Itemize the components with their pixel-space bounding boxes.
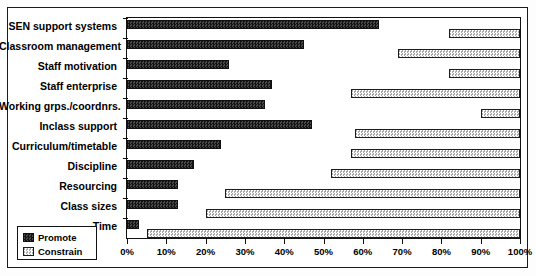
category-label: Working grps./coordnrs. <box>0 101 117 112</box>
x-axis-tick <box>324 239 325 244</box>
bar-group <box>127 59 520 79</box>
y-axis-tick <box>123 78 128 79</box>
y-axis-tick <box>123 178 128 179</box>
x-axis-tick-label: 20% <box>196 246 215 257</box>
x-axis-tick <box>520 239 521 244</box>
bar-group <box>127 139 520 159</box>
y-axis-tick <box>123 218 128 219</box>
x-axis-tick <box>481 239 482 244</box>
y-axis-tick <box>123 198 128 199</box>
x-axis-tick-label: 10% <box>157 246 176 257</box>
bar-group <box>127 199 520 219</box>
bar-group <box>127 159 520 179</box>
bar-group <box>127 19 520 39</box>
y-axis-tick <box>123 18 128 19</box>
bar-constrain <box>351 149 520 158</box>
bar-constrain <box>331 169 520 178</box>
category-label: Discipline <box>0 161 117 172</box>
x-axis-tick-label: 80% <box>432 246 451 257</box>
bar-promote <box>127 40 304 49</box>
y-axis-tick <box>123 158 128 159</box>
bar-promote <box>127 140 221 149</box>
x-axis-tick-label: 100% <box>508 246 532 257</box>
x-axis-tick <box>245 239 246 244</box>
x-axis-tick-label: 30% <box>235 246 254 257</box>
x-axis-tick-label: 50% <box>314 246 333 257</box>
x-axis-tick <box>166 239 167 244</box>
bar-promote <box>127 200 178 209</box>
bar-constrain <box>355 129 520 138</box>
bar-constrain <box>147 229 520 238</box>
promote-swatch-icon <box>23 233 34 242</box>
category-label: Class sizes <box>0 201 117 212</box>
legend-label-promote: Promote <box>38 232 77 243</box>
bar-constrain <box>225 189 520 198</box>
bar-constrain <box>481 109 520 118</box>
category-label: SEN support systems <box>0 21 117 32</box>
x-axis-tick <box>402 239 403 244</box>
bar-constrain <box>206 209 520 218</box>
bar-promote <box>127 60 229 69</box>
bar-constrain <box>398 49 520 58</box>
y-axis-tick <box>123 138 128 139</box>
y-axis-tick <box>123 98 128 99</box>
x-axis-tick <box>206 239 207 244</box>
x-axis-tick <box>127 239 128 244</box>
y-axis-tick <box>123 38 128 39</box>
bar-group <box>127 219 520 239</box>
legend-label-constrain: Constrain <box>38 246 82 257</box>
category-label: Classroom management <box>0 41 117 52</box>
x-axis-tick-label: 90% <box>471 246 490 257</box>
category-label: Staff motivation <box>0 61 117 72</box>
y-axis-tick <box>123 118 128 119</box>
category-label: Resourcing <box>0 181 117 192</box>
plot-area <box>126 17 521 239</box>
bar-promote <box>127 80 272 89</box>
y-axis-tick <box>123 58 128 59</box>
bar-promote <box>127 120 312 129</box>
bar-constrain <box>449 69 520 78</box>
category-label: Staff enterprise <box>0 81 117 92</box>
x-axis-tick <box>363 239 364 244</box>
x-axis-tick <box>284 239 285 244</box>
bar-promote <box>127 160 194 169</box>
bar-chart-figure: SEN support systemsClassroom managementS… <box>0 0 536 276</box>
bar-group <box>127 119 520 139</box>
bar-group <box>127 39 520 59</box>
bar-group <box>127 79 520 99</box>
bar-promote <box>127 180 178 189</box>
category-label: Inclass support <box>0 121 117 132</box>
constrain-swatch-icon <box>23 247 34 256</box>
bar-group <box>127 179 520 199</box>
bar-promote <box>127 220 139 229</box>
x-axis-tick-label: 0% <box>120 246 134 257</box>
x-axis-tick <box>441 239 442 244</box>
bar-constrain <box>449 29 520 38</box>
x-axis-tick-label: 70% <box>393 246 412 257</box>
legend-item-constrain: Constrain <box>23 245 82 257</box>
x-axis-tick-label: 60% <box>353 246 372 257</box>
x-axis-tick-label: 40% <box>275 246 294 257</box>
category-label: Curriculum/timetable <box>0 141 117 152</box>
legend-item-promote: Promote <box>23 231 77 243</box>
bars-container <box>127 18 520 238</box>
bar-group <box>127 99 520 119</box>
bar-promote <box>127 100 265 109</box>
bar-constrain <box>351 89 520 98</box>
chart-legend: Promote Constrain <box>17 226 97 260</box>
category-axis-labels: SEN support systemsClassroom managementS… <box>0 17 122 239</box>
bar-promote <box>127 20 379 29</box>
